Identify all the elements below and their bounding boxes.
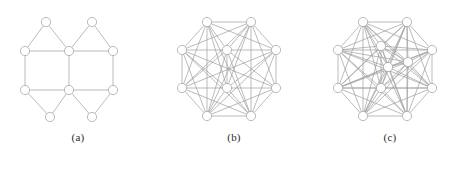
- graph-node: [246, 111, 255, 120]
- graph-node: [64, 85, 73, 94]
- graph-edge: [365, 92, 378, 112]
- graph-edge: [72, 94, 89, 114]
- edge-group: [182, 22, 276, 116]
- graph-node: [222, 83, 231, 92]
- graph-edge: [254, 91, 273, 112]
- graph-edge: [211, 90, 271, 115]
- graph-node: [177, 45, 186, 54]
- graph-node: [376, 41, 385, 50]
- graph-node: [20, 85, 29, 94]
- graph-node: [108, 46, 117, 55]
- graph-node: [64, 46, 73, 55]
- graph-edge: [49, 26, 66, 48]
- graph-diagram-a: [0, 0, 156, 132]
- graph-edge: [53, 94, 67, 113]
- graph-edge: [230, 91, 248, 112]
- graph-edge: [95, 26, 111, 48]
- graph-edge: [341, 25, 360, 46]
- figure-panel-b: (b): [156, 0, 312, 173]
- graph-canvas-a: [0, 0, 156, 132]
- graph-node: [271, 45, 280, 54]
- graph-edge: [384, 91, 404, 112]
- graph-edge: [28, 93, 47, 113]
- graph-edge: [230, 25, 248, 46]
- graph-node: [177, 83, 186, 92]
- figure-panel-a: (a): [0, 0, 156, 173]
- edge-group: [25, 26, 113, 114]
- graph-node: [333, 83, 342, 92]
- graph-diagram-c: [312, 0, 468, 132]
- graph-node: [333, 45, 342, 54]
- node-group: [333, 17, 436, 120]
- graph-edge: [342, 24, 402, 49]
- graph-edge: [253, 54, 275, 111]
- graph-canvas-c: [312, 0, 468, 132]
- graph-node: [358, 17, 367, 26]
- graph-node: [20, 46, 29, 55]
- panel-caption-b: (b): [156, 131, 312, 143]
- figure-root: (a) (b) (c): [0, 0, 468, 173]
- graph-edge: [211, 24, 271, 49]
- graph-edge: [410, 25, 429, 46]
- graph-node: [202, 17, 211, 26]
- graph-node: [246, 17, 255, 26]
- graph-diagram-b: [156, 0, 312, 132]
- graph-node: [222, 45, 231, 54]
- graph-node: [108, 85, 117, 94]
- graph-edge: [186, 24, 246, 49]
- graph-canvas-b: [156, 0, 312, 132]
- graph-edge: [367, 90, 427, 115]
- graph-node: [202, 111, 211, 120]
- graph-edge: [185, 25, 204, 46]
- graph-edge: [254, 25, 273, 46]
- graph-edge: [410, 91, 429, 112]
- graph-edge: [72, 26, 89, 48]
- graph-node: [358, 111, 367, 120]
- panel-caption-c: (c): [312, 131, 468, 143]
- graph-node: [41, 17, 50, 26]
- graph-edge: [28, 26, 44, 48]
- graph-node: [402, 111, 411, 120]
- graph-edge: [186, 90, 246, 115]
- graph-node: [402, 17, 411, 26]
- graph-edge: [384, 25, 403, 43]
- graph-node: [427, 83, 436, 92]
- graph-node: [271, 83, 280, 92]
- graph-node: [87, 17, 96, 26]
- graph-node: [45, 112, 54, 121]
- figure-panel-c: (c): [312, 0, 468, 173]
- graph-node: [87, 112, 96, 121]
- graph-edge: [208, 54, 225, 111]
- graph-edge: [341, 91, 360, 112]
- graph-node: [383, 62, 392, 71]
- graph-edge: [343, 46, 377, 49]
- graph-node: [376, 83, 385, 92]
- panel-caption-a: (a): [0, 131, 156, 143]
- graph-edge: [185, 91, 204, 112]
- graph-node: [427, 45, 436, 54]
- graph-edge: [95, 94, 110, 114]
- graph-node: [403, 57, 412, 66]
